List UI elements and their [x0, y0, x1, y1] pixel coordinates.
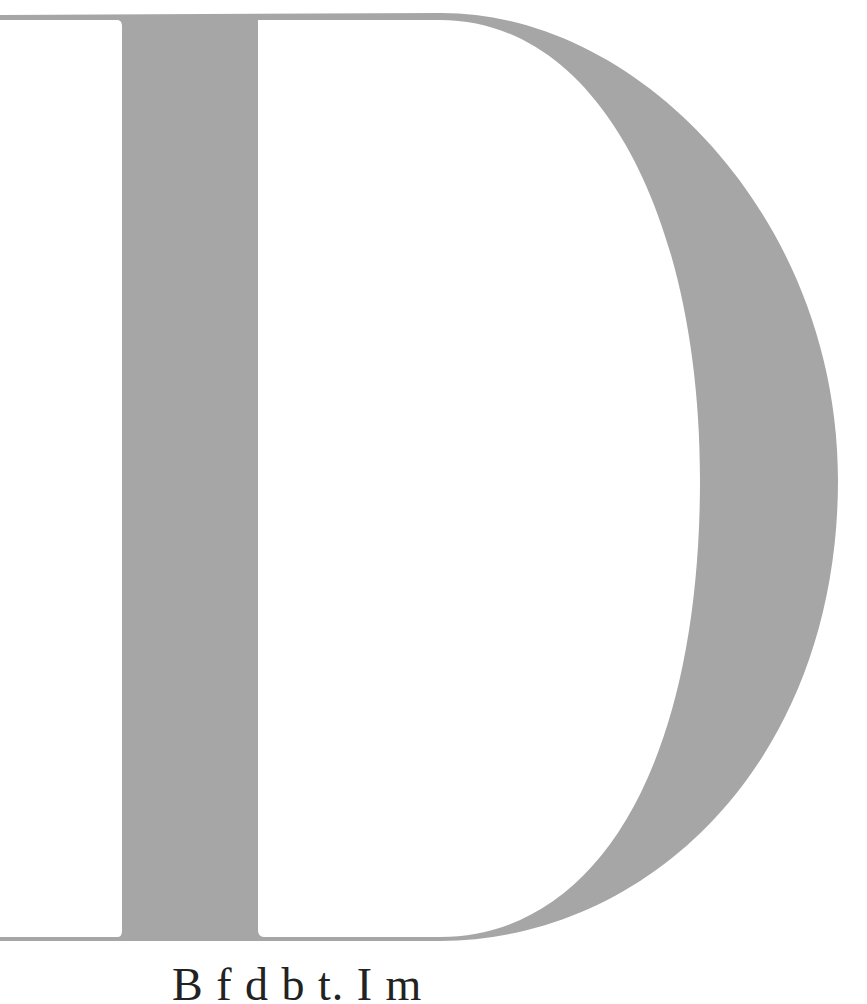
letter-d-shape	[0, 13, 838, 941]
caption-text: B f d b t. I m	[172, 962, 422, 1004]
